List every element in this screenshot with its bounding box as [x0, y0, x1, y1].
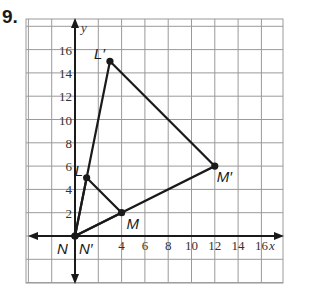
vertex-point	[83, 174, 90, 181]
y-tick-label: 2	[66, 206, 73, 221]
x-tick-label: 14	[232, 238, 246, 253]
vertex-label: N	[57, 240, 68, 257]
x-axis-label: x	[268, 238, 275, 253]
x-tick-label: 4	[118, 238, 125, 253]
x-tick-label: 6	[142, 238, 149, 253]
vertex-label: M′	[217, 168, 233, 185]
y-tick-label: 10	[59, 113, 72, 128]
x-tick-label: 16	[255, 238, 269, 253]
y-tick-label: 12	[59, 89, 72, 104]
y-tick-label: 16	[59, 43, 73, 58]
vertex-point	[106, 58, 113, 65]
y-tick-label: 4	[66, 182, 73, 197]
y-tick-label: 6	[66, 159, 73, 174]
vertex-point	[118, 209, 125, 216]
vertex-label: N′	[79, 240, 94, 257]
vertex-label: L	[75, 162, 83, 179]
x-tick-label: 8	[165, 238, 172, 253]
y-tick-label: 14	[59, 66, 73, 81]
vertex-label: L′	[94, 45, 106, 62]
y-tick-label: 8	[66, 136, 73, 151]
x-axis-arrow-left-icon	[28, 232, 38, 240]
x-tick-label: 12	[208, 238, 221, 253]
coordinate-graph: 46810121416246810121416 y x LMNL′M′N′	[0, 0, 312, 287]
x-tick-label: 10	[185, 238, 198, 253]
vertex-label: M	[127, 215, 140, 232]
vertex-point	[71, 232, 78, 239]
y-axis-label: y	[79, 20, 87, 35]
tick-labels: 46810121416246810121416	[59, 43, 268, 253]
